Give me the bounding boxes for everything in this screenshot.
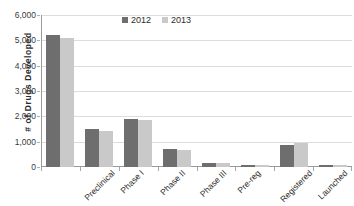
y-axis-tick-labels: 6,0005,0004,0003,0002,0001,0000 [0, 0, 40, 206]
bar-group [235, 15, 274, 167]
y-tick-mark [37, 91, 40, 92]
bar-2013-phase-ii [138, 120, 152, 167]
bar-2012-pre-reg [202, 163, 216, 167]
legend-label: 2012 [131, 15, 151, 25]
bar-group [119, 15, 158, 167]
legend-item-2012[interactable]: 2012 [122, 15, 151, 25]
y-tick-mark [37, 66, 40, 67]
bar-2013-launched [294, 143, 308, 167]
bar-group [313, 15, 352, 167]
bar-2013-suspended [333, 165, 347, 167]
legend-swatch-icon [122, 17, 128, 23]
y-tick-label: 3,000 [15, 86, 36, 96]
bar-2013-phase-i [99, 131, 113, 167]
legend-item-2013[interactable]: 2013 [162, 15, 191, 25]
x-tick-label: Phase III [198, 168, 229, 199]
bar-2012-suspended [319, 165, 333, 167]
bar-2012-preclinical [46, 35, 60, 167]
y-tick-mark [37, 167, 40, 168]
bar-group [197, 15, 236, 167]
x-tick-label: Preclinical [83, 168, 117, 202]
bar-chart: # of Drugs Developed 6,0005,0004,0003,00… [0, 0, 354, 206]
bar-group [80, 15, 119, 167]
y-tick-label: 1,000 [15, 137, 36, 147]
x-tick-label: Launched [316, 168, 349, 201]
bar-group [274, 15, 313, 167]
y-tick-mark [37, 15, 40, 16]
bar-group [41, 15, 80, 167]
bar-2013-phase-iii [177, 150, 191, 167]
bar-2013-preclinical [60, 38, 74, 167]
bar-2012-launched [280, 145, 294, 167]
y-tick-label: 0 [31, 162, 36, 172]
y-tick-mark [37, 142, 40, 143]
y-tick-mark [37, 116, 40, 117]
bar-group [158, 15, 197, 167]
bar-groups [41, 15, 352, 167]
y-tick-label: 4,000 [15, 61, 36, 71]
x-axis-tick-labels: PreclinicalPhase IPhase IIPhase IIIPre-r… [41, 168, 352, 206]
plot-area [41, 15, 352, 167]
bar-2012-phase-ii [124, 119, 138, 167]
x-tick-label: Registered [278, 168, 314, 204]
bar-2013-registered [255, 165, 269, 167]
legend-label: 2013 [171, 15, 191, 25]
bar-2012-registered [241, 165, 255, 167]
y-tick-mark [37, 40, 40, 41]
x-tick-label: Pre-reg [235, 168, 262, 195]
x-tick-label: Phase I [119, 168, 146, 195]
bar-2012-phase-i [85, 129, 99, 167]
bar-2013-pre-reg [216, 163, 230, 167]
y-tick-label: 6,000 [15, 10, 36, 20]
bar-2012-phase-iii [163, 149, 177, 167]
y-tick-label: 2,000 [15, 111, 36, 121]
y-tick-label: 5,000 [15, 35, 36, 45]
legend-swatch-icon [162, 17, 168, 23]
x-tick-label: Phase II [158, 168, 187, 197]
chart-legend: 20122013 [122, 15, 191, 25]
